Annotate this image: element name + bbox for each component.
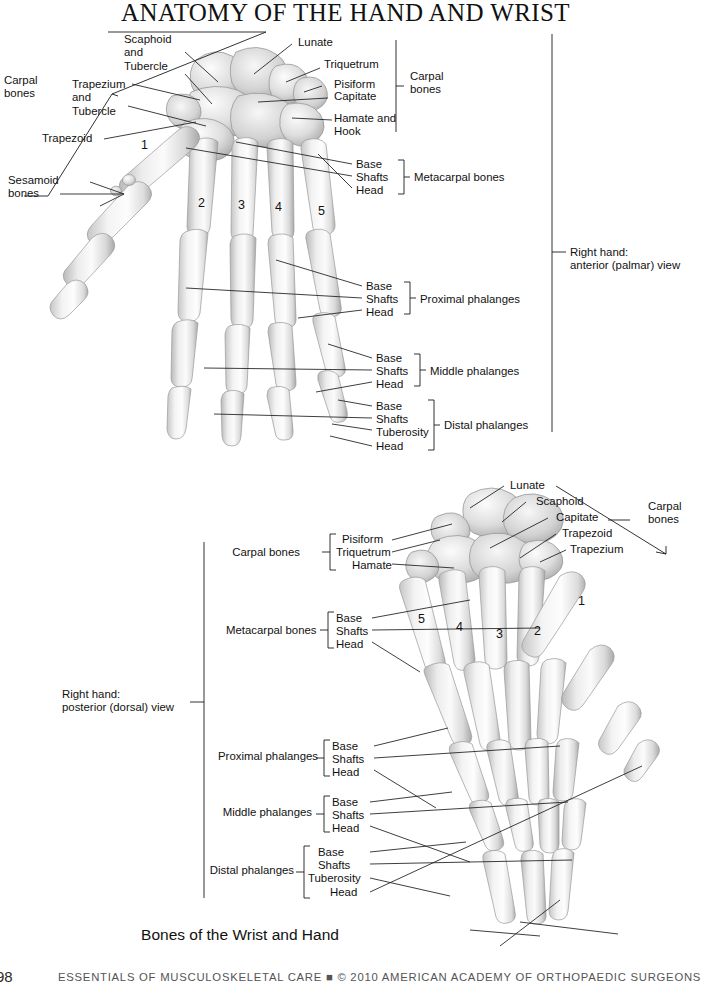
dorsal-carpal-part-triquetrum: Triquetrum — [336, 546, 391, 559]
palmar-metacarpal-group-name: Metacarpal bones — [414, 171, 505, 184]
dorsal-middle-part-head: Head — [332, 822, 359, 835]
dorsal-carpal-part-hamate: Hamate — [352, 559, 392, 572]
palmar-trapezoid-label: Trapezoid — [42, 132, 92, 145]
palmar-sesamoid-bones-label: Sesamoid bones — [8, 174, 59, 201]
dorsal-metacarpal-group-name: Metacarpal bones — [226, 624, 314, 637]
palmar-metacarpal-part-shafts: Shafts — [356, 171, 388, 184]
palmar-proximal-part-base: Base — [366, 280, 392, 293]
palmar-hamate-label: Hamate and Hook — [334, 112, 396, 139]
dorsal-proximal-part-shafts: Shafts — [332, 753, 364, 766]
dorsal-view-label: Right hand: posterior (dorsal) view — [62, 688, 174, 715]
palmar-distal-part-tuberosity: Tuberosity — [376, 426, 429, 439]
dorsal-metacarpal-number-2: 2 — [534, 624, 541, 638]
dorsal-capitate-label: Capitate — [556, 511, 598, 524]
dorsal-middle-part-base: Base — [332, 796, 358, 809]
palmar-middle-part-shafts: Shafts — [376, 365, 408, 378]
palmar-scaphoid-label: Scaphoid and Tubercle — [124, 33, 172, 73]
dorsal-metacarpal-number-1: 1 — [578, 594, 585, 608]
palmar-metacarpal-number-1: 1 — [141, 138, 148, 152]
palmar-carpal-group-label: Carpal bones — [410, 70, 444, 97]
palmar-proximal-part-shafts: Shafts — [366, 293, 398, 306]
palmar-trapezium-label: Trapezium and Tubercle — [72, 78, 125, 118]
palmar-triquetrum-label: Triquetrum — [324, 58, 379, 71]
dorsal-metacarpal-part-base: Base — [336, 612, 362, 625]
dorsal-carpal-group-label: Carpal bones — [648, 500, 682, 527]
dorsal-metacarpal-part-shafts: Shafts — [336, 625, 368, 638]
palmar-proximal-group-name: Proximal phalanges — [420, 293, 520, 306]
page-folio: 98 — [0, 968, 13, 985]
dorsal-metacarpal-number-5: 5 — [418, 612, 425, 626]
dorsal-carpal-left-group-name: Carpal bones — [228, 546, 300, 559]
palmar-distal-part-base: Base — [376, 400, 402, 413]
palmar-lunate-label: Lunate — [298, 36, 333, 49]
figure-caption: Bones of the Wrist and Hand — [0, 926, 480, 944]
dorsal-metacarpal-number-4: 4 — [456, 620, 463, 634]
dorsal-distal-part-head: Head — [330, 886, 357, 899]
palmar-view-label: Right hand: anterior (palmar) view — [570, 246, 680, 273]
palmar-metacarpal-part-head: Head — [356, 184, 383, 197]
dorsal-proximal-group-name: Proximal phalanges — [218, 750, 312, 763]
palmar-metacarpal-part-base: Base — [356, 158, 382, 171]
dorsal-proximal-part-base: Base — [332, 740, 358, 753]
dorsal-distal-part-tuberosity: Tuberosity — [308, 872, 361, 885]
dorsal-trapezoid-label: Trapezoid — [562, 527, 612, 540]
dorsal-distal-part-shafts: Shafts — [318, 859, 350, 872]
palmar-proximal-part-head: Head — [366, 306, 393, 319]
palmar-metacarpal-number-5: 5 — [318, 204, 325, 218]
dorsal-middle-group-name: Middle phalanges — [218, 806, 312, 819]
palmar-distal-group-name: Distal phalanges — [444, 419, 528, 432]
palmar-middle-part-base: Base — [376, 352, 402, 365]
dorsal-middle-part-shafts: Shafts — [332, 809, 364, 822]
dorsal-scaphoid-label: Scaphoid — [536, 495, 584, 508]
palmar-distal-part-shafts: Shafts — [376, 413, 408, 426]
palmar-middle-group-name: Middle phalanges — [430, 365, 519, 378]
palmar-metacarpal-number-3: 3 — [238, 198, 245, 212]
palmar-middle-part-head: Head — [376, 378, 403, 391]
palmar-metacarpal-number-2: 2 — [198, 196, 205, 210]
palmar-metacarpal-number-4: 4 — [275, 200, 282, 214]
dorsal-distal-group-name: Distal phalanges — [206, 864, 294, 877]
dorsal-lunate-label: Lunate — [510, 479, 545, 492]
palmar-carpal-bones-left-label: Carpal bones — [4, 74, 38, 101]
palmar-capitate-label: Capitate — [334, 90, 376, 103]
dorsal-trapezium-label: Trapezium — [570, 543, 623, 556]
dorsal-metacarpal-number-3: 3 — [496, 627, 503, 641]
footer-source-line: ESSENTIALS OF MUSCULOSKELETAL CARE ■ © 2… — [58, 971, 701, 983]
dorsal-metacarpal-part-head: Head — [336, 638, 363, 651]
dorsal-distal-part-base: Base — [318, 846, 344, 859]
dorsal-proximal-part-head: Head — [332, 766, 359, 779]
palmar-distal-part-head: Head — [376, 440, 403, 453]
dorsal-carpal-part-pisiform: Pisiform — [342, 533, 383, 546]
